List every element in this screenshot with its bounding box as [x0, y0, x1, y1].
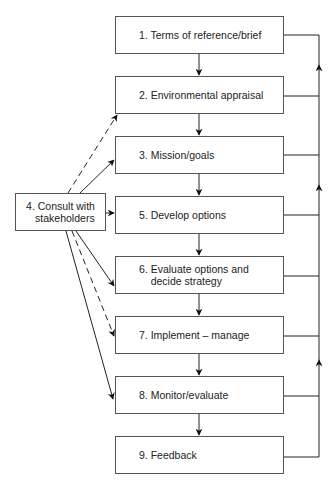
- step-6-evaluate-options: 6. Evaluate options and decide strategy: [115, 256, 284, 294]
- step-9-feedback: 9. Feedback: [115, 436, 284, 474]
- step-label: 9. Feedback: [139, 449, 197, 461]
- step-5-develop-options: 5. Develop options: [115, 196, 284, 234]
- step-2-environmental-appraisal: 2. Environmental appraisal: [115, 76, 284, 114]
- step-label: 5. Develop options: [139, 209, 226, 221]
- step-label: 6. Evaluate options and decide strategy: [139, 263, 249, 287]
- step-4-consult-stakeholders: 4. Consult with stakeholders: [15, 193, 106, 231]
- step-label: 8. Monitor/evaluate: [139, 389, 228, 401]
- step-8-monitor-evaluate: 8. Monitor/evaluate: [115, 376, 284, 414]
- step-label: 1. Terms of reference/brief: [139, 29, 261, 41]
- step-label: 2. Environmental appraisal: [139, 89, 263, 101]
- step-label: 3. Mission/goals: [139, 149, 214, 161]
- consult-to-step7-dashed: [72, 231, 114, 336]
- step-7-implement-manage: 7. Implement – manage: [115, 316, 284, 354]
- step-1-terms-of-reference: 1. Terms of reference/brief: [115, 16, 284, 54]
- consult-label: 4. Consult with stakeholders: [26, 200, 95, 224]
- step-label: 7. Implement – manage: [139, 329, 249, 341]
- consult-to-step6: [76, 231, 114, 286]
- step-3-mission-goals: 3. Mission/goals: [115, 136, 284, 174]
